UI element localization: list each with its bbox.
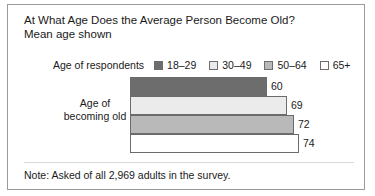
legend-item-label: 50–64 [277, 59, 306, 71]
legend-item-50-64: 50–64 [264, 59, 306, 71]
bar-row: 69 [130, 96, 354, 115]
legend-item-label: 65+ [333, 59, 351, 71]
chart-subtitle: Mean age shown [24, 27, 344, 41]
category-axis-label: Age of becoming old [58, 97, 132, 123]
legend-item-65-plus: 65+ [320, 59, 351, 71]
bar-row: 60 [130, 77, 354, 96]
legend-item-30-49: 30–49 [209, 59, 251, 71]
chart-title: At What Age Does the Average Person Beco… [24, 13, 344, 27]
bar-row: 74 [130, 134, 354, 153]
legend-item-label: 30–49 [222, 59, 251, 71]
category-axis-label-line1: Age of [58, 97, 132, 110]
note-divider [24, 162, 354, 163]
plot-area: Age of becoming old 60 69 72 74 [24, 77, 354, 153]
category-axis-label-line2: becoming old [58, 110, 132, 123]
bar-row: 72 [130, 115, 354, 134]
legend-swatch-icon [154, 61, 163, 70]
chart-frame: At What Age Does the Average Person Beco… [7, 4, 365, 190]
chart-legend: Age of respondents 18–29 30–49 50–64 65+ [53, 59, 351, 71]
bar-value-label: 60 [271, 77, 283, 96]
legend-item-18-29: 18–29 [154, 59, 196, 71]
bar-50-64 [130, 115, 294, 134]
chart-note: Note: Asked of all 2,969 adults in the s… [24, 169, 230, 181]
legend-swatch-icon [320, 61, 329, 70]
title-block: At What Age Does the Average Person Beco… [24, 13, 344, 41]
legend-title: Age of respondents [53, 59, 144, 71]
legend-item-label: 18–29 [167, 59, 196, 71]
bar-18-29 [130, 77, 267, 96]
legend-swatch-icon [209, 61, 218, 70]
bar-group: 60 69 72 74 [130, 77, 354, 153]
bar-value-label: 69 [291, 96, 303, 115]
bar-value-label: 72 [298, 115, 310, 134]
bar-value-label: 74 [303, 134, 315, 153]
bar-65-plus [130, 134, 299, 153]
bar-30-49 [130, 96, 287, 115]
legend-swatch-icon [264, 61, 273, 70]
